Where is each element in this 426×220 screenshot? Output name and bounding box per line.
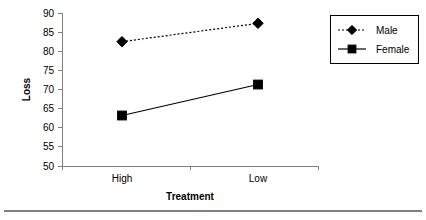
y-tick-label: 50 [43, 161, 55, 172]
x-tick-label: Low [249, 173, 268, 184]
y-tick-label: 75 [43, 65, 55, 76]
x-axis-title: Treatment [166, 191, 214, 202]
legend-box [330, 15, 418, 63]
y-tick-label: 70 [43, 84, 55, 95]
y-tick-label: 65 [43, 103, 55, 114]
chart-legend[interactable]: MaleFemale [330, 15, 418, 63]
x-tick-label: High [112, 173, 133, 184]
y-tick-label: 85 [43, 27, 55, 38]
y-tick-label: 55 [43, 141, 55, 152]
y-axis: 505560657075808590 [43, 8, 62, 172]
legend-label-female[interactable]: Female [376, 44, 410, 55]
legend-marker-female [348, 45, 356, 53]
data-point-female [254, 80, 263, 89]
data-point-female [118, 111, 127, 120]
y-tick-label: 60 [43, 122, 55, 133]
y-tick-label: 80 [43, 46, 55, 57]
y-axis-title: Loss [21, 77, 32, 101]
legend-label-male[interactable]: Male [376, 25, 398, 36]
chart-canvas: 505560657075808590 HighLow LossTreatment… [0, 0, 426, 220]
line-chart: 505560657075808590 HighLow LossTreatment… [0, 0, 426, 220]
y-tick-label: 90 [43, 8, 55, 19]
